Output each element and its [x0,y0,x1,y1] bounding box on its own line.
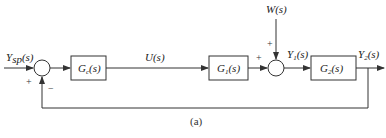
block-diagram: Ysp(s) + − Gc(s) U(s) G1(s) + W(s) + Y1(… [0,0,386,138]
disturbance-junction-left-plus-sign: + [256,52,262,63]
process1-block-label: G1(s) [217,62,240,76]
error-junction-plus-sign: + [26,76,32,87]
reference-signal-label: Ysp(s) [6,51,34,65]
controller-block-label: Gc(s) [78,62,101,76]
error-summing-junction [34,60,50,76]
control-signal-label: U(s) [145,51,165,64]
disturbance-junction-top-plus-sign: + [267,38,273,49]
intermediate-signal-label: Y1(s) [287,48,309,62]
error-junction-minus-sign: − [48,83,54,94]
process2-block-label: G2(s) [320,62,343,76]
figure-caption: (a) [190,115,203,128]
disturbance-signal-label: W(s) [266,3,287,16]
disturbance-summing-junction [268,60,284,76]
output-signal-label: Y2(s) [358,48,380,62]
